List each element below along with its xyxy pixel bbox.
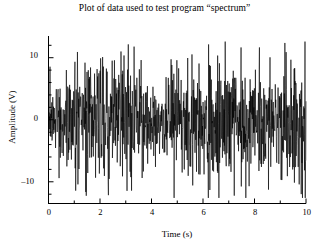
data-series-line <box>49 42 307 198</box>
y-axis-label: Amplitude (V) <box>7 77 17 157</box>
x-tick-label-2: 2 <box>85 207 115 217</box>
x-axis-label: Time (s) <box>48 229 306 239</box>
x-tick-label-6: 6 <box>189 207 219 217</box>
x-tick-marks <box>49 199 307 204</box>
y-tick-label-10: 10 <box>8 50 38 60</box>
x-tick-label-10: 10 <box>292 207 322 217</box>
x-tick-label-8: 8 <box>240 207 270 217</box>
x-tick-label-4: 4 <box>137 207 167 217</box>
y-tick-label-neg10: –10 <box>4 176 34 186</box>
x-tick-label-0: 0 <box>34 207 64 217</box>
figure: Plot of data used to test program “spect… <box>0 0 329 247</box>
data-series-layer <box>49 42 307 198</box>
